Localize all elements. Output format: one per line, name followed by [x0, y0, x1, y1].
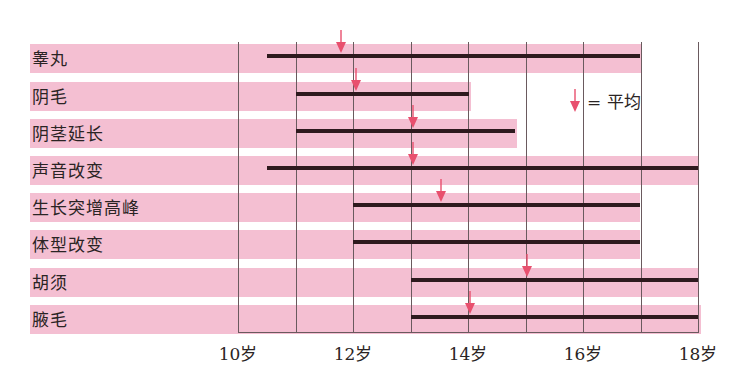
average-arrow-icon [435, 179, 447, 203]
legend: = 平均 [569, 88, 641, 113]
x-tick-label: 10岁 [219, 340, 258, 365]
row-label: 生长突增高峰 [32, 194, 140, 222]
range-bar [353, 240, 640, 244]
gridline [411, 42, 412, 333]
row-label: 体型改变 [32, 231, 104, 259]
range-bar [411, 278, 698, 282]
row-band [30, 268, 699, 297]
range-bar [296, 129, 515, 133]
row-label: 腋毛 [32, 306, 68, 334]
row-band [30, 156, 699, 185]
row-band [30, 305, 701, 334]
range-bar [267, 54, 640, 58]
average-arrow-icon [407, 105, 419, 129]
x-axis-line [238, 332, 698, 333]
average-arrow-icon [464, 291, 476, 315]
row-label: 声音改变 [32, 157, 104, 185]
gridline [583, 42, 584, 333]
gridline [698, 42, 699, 333]
range-bar [267, 166, 698, 170]
row-band [30, 82, 471, 111]
average-arrow-icon [407, 142, 419, 166]
gridline [468, 42, 469, 333]
row-label: 阴茎延长 [32, 120, 104, 148]
range-bar [353, 203, 640, 207]
average-arrow-icon [521, 254, 533, 278]
gridline [238, 42, 239, 333]
puberty-timeline-chart: 睾丸阴毛阴茎延长声音改变生长突增高峰体型改变胡须腋毛 10岁12岁14岁16岁1… [0, 0, 741, 383]
row-band [30, 230, 640, 259]
average-arrow-icon [335, 30, 347, 54]
range-bar [296, 92, 469, 96]
legend-label: = 平均 [587, 88, 641, 113]
average-arrow-icon [350, 68, 362, 92]
x-tick-label: 12岁 [334, 340, 373, 365]
x-tick-label: 16岁 [564, 340, 603, 365]
row-label: 睾丸 [32, 45, 68, 73]
gridline [526, 42, 527, 333]
x-tick-label: 14岁 [449, 340, 488, 365]
x-tick-label: 18岁 [679, 340, 718, 365]
range-bar [411, 315, 698, 319]
gridline [641, 42, 642, 333]
row-label: 胡须 [32, 269, 68, 297]
down-arrow-icon [569, 89, 581, 113]
gridline [296, 42, 297, 333]
row-label: 阴毛 [32, 83, 68, 111]
